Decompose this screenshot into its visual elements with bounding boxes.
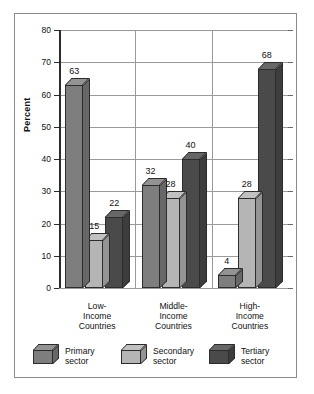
gridline (59, 127, 288, 128)
bar-value-label: 32 (136, 167, 166, 176)
bar-front-face (142, 185, 160, 288)
right-tick-mark (288, 127, 293, 128)
bar-value-label: 15 (79, 222, 109, 231)
bar-chart: Percent 01020304050607080 63152232284042… (0, 0, 314, 394)
bar-side-face (276, 62, 283, 288)
x-category-label: Low-IncomeCountries (59, 301, 135, 332)
x-category-label-line: Countries (212, 321, 288, 331)
legend-label: Primarysector (65, 346, 95, 366)
bar-side-face (180, 191, 187, 288)
gridline (59, 159, 288, 160)
bar-front-face (218, 275, 236, 288)
legend: PrimarysectorSecondarysectorTertiarysect… (33, 344, 283, 372)
bar-side-face (256, 191, 263, 288)
bar-side-face (160, 178, 167, 288)
gridline (59, 288, 288, 289)
bar-value-label: 40 (176, 141, 206, 150)
y-tick-label: 50 (25, 123, 51, 132)
gridline (59, 30, 288, 31)
bar (142, 185, 160, 288)
bar-side-face (200, 152, 207, 288)
x-category-label: Middle-IncomeCountries (135, 301, 211, 332)
bar-side-face (103, 233, 110, 288)
legend-label-line1: Secondary (153, 346, 194, 356)
legend-label-line1: Tertiary (241, 346, 269, 356)
right-tick-mark (288, 159, 293, 160)
x-category-label-line: Income (212, 311, 288, 321)
x-category-label-line: High- (212, 301, 288, 311)
x-category-label-line: Countries (59, 321, 135, 331)
bar-value-label: 63 (59, 67, 89, 76)
y-tick-label: 20 (25, 220, 51, 229)
bar-value-label: 28 (156, 180, 186, 189)
legend-swatch (209, 350, 229, 364)
bar-value-label: 4 (212, 257, 242, 266)
x-category-label: High-IncomeCountries (212, 301, 288, 332)
legend-label: Secondarysector (153, 346, 194, 366)
legend-swatch (121, 350, 141, 364)
bar-front-face (65, 85, 83, 288)
right-tick-mark (288, 30, 293, 31)
right-tick-mark (288, 62, 293, 63)
x-category-label-line: Income (135, 311, 211, 321)
bar (218, 275, 236, 288)
plot-area (59, 30, 288, 288)
y-tick-label: 0 (25, 284, 51, 293)
y-tick-label: 80 (25, 26, 51, 35)
right-tick-mark (288, 191, 293, 192)
legend-swatch-front (121, 350, 141, 364)
legend-label: Tertiarysector (241, 346, 269, 366)
legend-swatch (33, 350, 53, 364)
x-category-label-line: Middle- (135, 301, 211, 311)
right-tick-mark (288, 224, 293, 225)
bar-value-label: 68 (252, 51, 282, 60)
legend-swatch-front (209, 350, 229, 364)
x-category-label-line: Income (59, 311, 135, 321)
bar-value-label: 22 (99, 199, 129, 208)
category-separator (135, 30, 136, 288)
bar-side-face (83, 78, 90, 288)
legend-label-line1: Primary (65, 346, 95, 356)
gridline (59, 62, 288, 63)
bar (65, 85, 83, 288)
gridline (59, 95, 288, 96)
legend-label-line2: sector (153, 356, 194, 366)
y-tick-label: 30 (25, 187, 51, 196)
right-tick-mark (288, 288, 293, 289)
legend-label-line2: sector (241, 356, 269, 366)
x-category-label-line: Countries (135, 321, 211, 331)
bar-value-label: 28 (232, 180, 262, 189)
y-tick-label: 70 (25, 58, 51, 67)
right-tick-mark (288, 256, 293, 257)
x-category-label-line: Low- (59, 301, 135, 311)
y-tick-label: 60 (25, 91, 51, 100)
y-tick-label: 10 (25, 252, 51, 261)
bar-side-face (123, 210, 130, 288)
legend-swatch-front (33, 350, 53, 364)
legend-label-line2: sector (65, 356, 95, 366)
y-tick-label: 40 (25, 155, 51, 164)
category-separator (212, 30, 213, 288)
right-tick-mark (288, 95, 293, 96)
